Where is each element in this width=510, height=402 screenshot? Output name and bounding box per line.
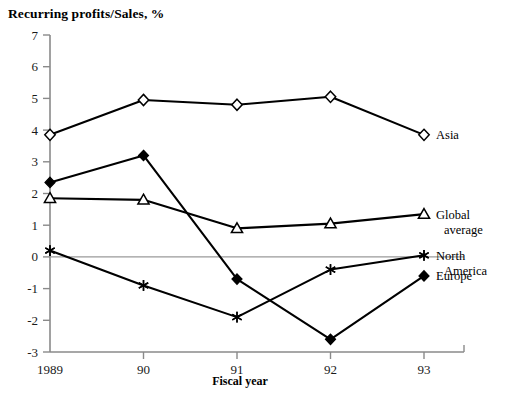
data-point-asia-91 [232, 99, 242, 110]
chart-container: Recurring profits/Sales, % 76543210-1-2-… [0, 0, 510, 402]
y-axis-tick-label: -3 [27, 345, 38, 360]
series-label-global-average: average [444, 223, 483, 237]
data-point-asia-1989 [45, 129, 55, 140]
y-axis-tick-label: 2 [32, 186, 39, 201]
y-axis-tick-label: 3 [32, 154, 39, 169]
x-axis-title: Fiscal year [0, 374, 480, 389]
line-chart-plot: 76543210-1-2-3198990919293AsiaGlobalaver… [0, 0, 510, 402]
series-label-europe: Europe [436, 269, 473, 283]
data-point-europe-1989 [45, 177, 55, 187]
y-axis-tick-label: -2 [27, 313, 38, 328]
data-point-north-america-1989 [45, 245, 54, 256]
data-point-north-america-91 [232, 312, 241, 323]
y-axis-tick-label: 6 [32, 59, 39, 74]
data-point-north-america-90 [139, 280, 148, 291]
y-axis-tick-label: 1 [32, 218, 39, 233]
y-axis-tick-label: -1 [27, 281, 38, 296]
series-label-global-average: Global [436, 208, 471, 222]
y-axis-tick-label: 0 [32, 249, 39, 264]
y-axis-tick-label: 5 [32, 91, 39, 106]
data-point-asia-90 [138, 94, 148, 105]
y-axis-tick-label: 7 [32, 28, 39, 43]
data-point-global-average-93 [418, 209, 429, 219]
data-point-asia-92 [325, 91, 335, 102]
series-label-asia: Asia [436, 128, 459, 142]
data-point-asia-93 [419, 129, 429, 140]
series-label-north-america: North [436, 249, 466, 263]
y-axis-tick-label: 4 [32, 123, 39, 138]
